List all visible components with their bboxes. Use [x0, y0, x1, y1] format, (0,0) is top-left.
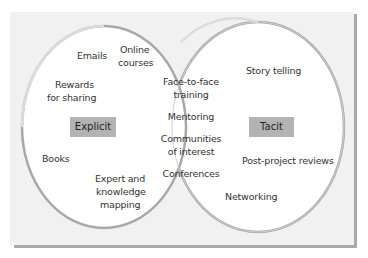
item-expert-line3: mapping [100, 198, 140, 211]
item-rewards-line1: Rewards [55, 78, 94, 91]
item-networking: Networking [225, 190, 277, 203]
item-communities-line1: Communities [157, 132, 225, 145]
item-online-courses-line2: courses [118, 56, 153, 69]
item-mentoring: Mentoring [157, 110, 225, 123]
item-rewards-line2: for sharing [47, 91, 96, 104]
item-books: Books [42, 152, 70, 165]
item-conferences: Conferences [157, 167, 225, 180]
item-expert-line1: Expert and [95, 172, 145, 185]
explicit-label: Explicit [70, 117, 116, 137]
venn-diagram [0, 0, 368, 258]
item-communities-line2: of interest [157, 145, 225, 158]
item-post-project-reviews: Post-project reviews [242, 154, 334, 167]
item-online-courses-line1: Online [120, 43, 149, 56]
item-f2f-line1: Face-to-face [157, 75, 225, 88]
item-emails: Emails [77, 49, 107, 62]
item-story-telling: Story telling [246, 64, 301, 77]
tacit-label: Tacit [249, 117, 294, 137]
item-expert-line2: knowledge [96, 185, 146, 198]
item-f2f-line2: training [157, 88, 225, 101]
